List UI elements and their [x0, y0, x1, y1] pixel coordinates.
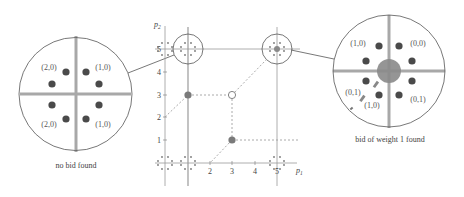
left-zoom-caption: no bid found [56, 161, 97, 170]
dot [362, 57, 369, 64]
p1-axis-label: p1 [295, 166, 303, 176]
dot [408, 77, 415, 84]
right-zoom-caption: bid of weight 1 found [355, 135, 424, 144]
dashed-segment [165, 95, 188, 117]
price-plot: 1 2 3 4 5 2 3 4 5 p1 p2 [153, 20, 303, 186]
point-open-3-3 [228, 91, 235, 98]
point-filled-3-1 [228, 136, 235, 143]
dot [62, 115, 69, 122]
left-zoom-label-top-right: (1,0) [95, 63, 111, 72]
point-filled-1-3 [184, 91, 191, 98]
dot [362, 77, 369, 84]
search-path [165, 60, 300, 163]
right-zoom-center-disk [377, 59, 401, 83]
right-zoom-label-mid-left: (0,1) [345, 88, 361, 97]
dot [95, 101, 102, 108]
p1-tick-5: 5 [275, 167, 279, 176]
right-zoom-view: (1,0) (0,0) (0,1) (1,0) (0,1) bid of wei… [333, 15, 445, 144]
p2-tick-3: 3 [157, 91, 161, 100]
dashed-segment [232, 60, 266, 95]
p2-tick-2: 2 [157, 113, 161, 122]
dot [395, 42, 402, 49]
bid-marker-bar [373, 81, 379, 88]
left-zoom-label-bottom-left: (2,0) [41, 120, 57, 129]
left-connector-line [128, 55, 174, 73]
right-zoom-label-top-right: (0,0) [410, 39, 426, 48]
neighborhood-center-5-5 [274, 46, 280, 52]
dot [95, 80, 102, 87]
dot [375, 42, 382, 49]
bid-search-diagram: (2,0) (1,0) (2,0) (1,0) no bid found 1 2… [0, 0, 464, 197]
dot [395, 91, 402, 98]
right-connector-line [291, 50, 334, 59]
p1-tick-3: 3 [230, 167, 234, 176]
left-zoom-view: (2,0) (1,0) (2,0) (1,0) no bid found [19, 36, 132, 170]
p2-tick-4: 4 [157, 68, 161, 77]
dot [62, 68, 69, 75]
dot [48, 101, 55, 108]
right-zoom-label-top-left: (1,0) [350, 39, 366, 48]
dashed-segment [210, 140, 232, 163]
dot [82, 115, 89, 122]
dot [375, 91, 382, 98]
p2-axis-label: p2 [153, 20, 161, 30]
left-zoom-label-bottom-right: (1,0) [95, 120, 111, 129]
p2-tick-1: 1 [157, 136, 161, 145]
edge-marker [350, 107, 354, 110]
p1-tick-4: 4 [253, 167, 257, 176]
left-zoom-label-top-left: (2,0) [41, 63, 57, 72]
dot [408, 57, 415, 64]
right-zoom-label-bottom-left: (1,0) [364, 101, 380, 110]
dot [82, 68, 89, 75]
right-zoom-label-bottom-right: (0,1) [410, 95, 426, 104]
dot [48, 80, 55, 87]
p1-tick-2: 2 [208, 167, 212, 176]
